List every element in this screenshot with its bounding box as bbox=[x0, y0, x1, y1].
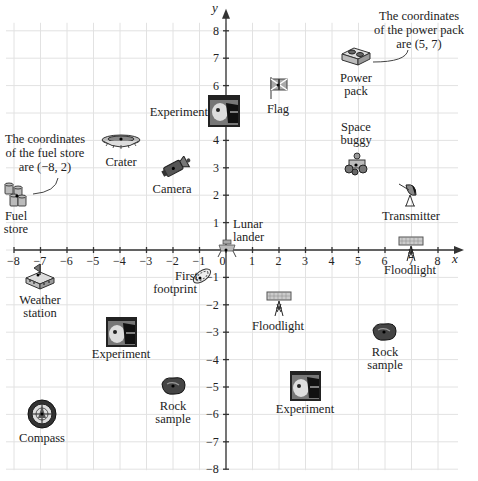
x-axis-label: x bbox=[452, 253, 458, 265]
rock-sample-icon bbox=[370, 321, 398, 343]
flag-icon bbox=[269, 76, 289, 100]
label-power-pack: Power pack bbox=[336, 72, 376, 98]
experiment-photo-icon bbox=[208, 95, 240, 127]
callout-line-power bbox=[372, 48, 412, 68]
y-tick-label: −7 bbox=[206, 436, 219, 448]
label-floodlight-axis: Floodlight bbox=[380, 264, 440, 277]
label-space-buggy: Space buggy bbox=[336, 121, 376, 147]
x-tick-label: 2 bbox=[276, 255, 282, 267]
label-first-footprint: First footprint bbox=[150, 270, 200, 296]
label-weather-station: Weather station bbox=[14, 294, 66, 320]
y-tick-label: 8 bbox=[213, 25, 219, 37]
label-experiment-upper: Experiment bbox=[138, 106, 208, 119]
y-tick-label: −6 bbox=[206, 408, 219, 420]
x-tick-label: −2 bbox=[166, 255, 179, 267]
y-tick-label: 1 bbox=[213, 217, 219, 229]
label-transmitter: Transmitter bbox=[376, 210, 446, 223]
floodlight-icon bbox=[266, 291, 292, 317]
floodlight-icon bbox=[398, 236, 424, 262]
space-buggy-icon bbox=[343, 152, 369, 176]
callout-line-fuel bbox=[30, 176, 64, 198]
label-flag: Flag bbox=[262, 103, 294, 116]
camera-icon bbox=[160, 156, 192, 178]
crater-icon bbox=[100, 133, 142, 151]
weather-station-icon bbox=[24, 262, 56, 290]
label-rock-sample-left: Rock sample bbox=[152, 400, 194, 426]
x-tick-label: −3 bbox=[140, 255, 153, 267]
compass-icon bbox=[26, 398, 58, 430]
x-tick-label: 1 bbox=[249, 255, 255, 267]
x-tick-label: −4 bbox=[113, 255, 126, 267]
y-axis-label: y bbox=[212, 2, 218, 14]
y-tick-label: −2 bbox=[206, 299, 219, 311]
satellite-dish-icon bbox=[398, 181, 420, 207]
y-tick-label: 3 bbox=[213, 162, 219, 174]
label-camera: Camera bbox=[148, 183, 196, 196]
y-tick-label: −4 bbox=[206, 354, 219, 366]
y-tick-label: 4 bbox=[213, 134, 219, 146]
x-tick-label: 5 bbox=[355, 255, 361, 267]
y-tick-label: −5 bbox=[206, 381, 219, 393]
x-tick-label: −6 bbox=[60, 255, 73, 267]
annotation-fuel-store: The coordinates of the fuel store are (−… bbox=[2, 132, 88, 174]
y-tick-label: 6 bbox=[213, 80, 219, 92]
experiment-photo-icon bbox=[106, 317, 137, 347]
x-tick-label: 4 bbox=[329, 255, 335, 267]
label-experiment-left: Experiment bbox=[86, 348, 156, 361]
x-tick-label: −5 bbox=[87, 255, 100, 267]
label-experiment-lower: Experiment bbox=[270, 403, 340, 416]
y-tick-label: 2 bbox=[213, 189, 219, 201]
label-rock-sample-right: Rock sample bbox=[364, 346, 406, 372]
label-floodlight-lower: Floodlight bbox=[248, 320, 308, 333]
annotation-power-pack: The coordinates of the power pack are (5… bbox=[368, 9, 470, 51]
y-tick-label: −3 bbox=[206, 326, 219, 338]
y-tick-label: −8 bbox=[206, 463, 219, 475]
label-lunar-lander: Lunar lander bbox=[233, 218, 269, 244]
rock-sample-icon bbox=[159, 375, 187, 397]
label-fuel-store: Fuel store bbox=[0, 210, 32, 236]
fuel-barrels-icon bbox=[4, 182, 28, 208]
x-tick-label: 3 bbox=[302, 255, 308, 267]
experiment-photo-icon bbox=[290, 371, 321, 401]
y-tick-label: 7 bbox=[213, 52, 219, 64]
x-tick-label: −8 bbox=[7, 255, 20, 267]
label-compass: Compass bbox=[14, 432, 70, 445]
label-crater: Crater bbox=[100, 156, 142, 169]
